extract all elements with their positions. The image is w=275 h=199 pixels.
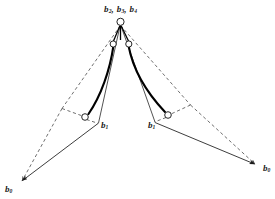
right-far-label: b0	[263, 164, 270, 174]
dashed-right-inner	[171, 105, 191, 114]
right-mid-label-sub: 1	[153, 124, 156, 130]
dashed-right-upper	[121, 26, 191, 106]
dashed-construction-lines	[22, 26, 255, 182]
dashed-left-lower	[22, 109, 62, 182]
right-far-label-sub: 0	[268, 167, 271, 173]
left-lower-arm	[23, 124, 99, 181]
apex-fan	[114, 26, 129, 42]
diagram-canvas	[0, 0, 275, 199]
dashed-left-inner	[62, 109, 83, 117]
dashed-left-upper	[62, 26, 121, 109]
right-lower-arm	[155, 123, 255, 165]
dashed-left-stub	[87, 120, 99, 124]
left-mid-label: b1	[101, 121, 108, 131]
apex-fan-left	[114, 26, 121, 42]
left-far-label-sub: 0	[10, 188, 13, 194]
thick-links	[89, 46, 166, 115]
right-mid-label: b1	[148, 121, 155, 131]
upper-left-node	[110, 41, 116, 47]
dashed-right-stub	[155, 118, 167, 123]
left-mid-label-sub: 1	[106, 124, 109, 130]
left-joint-node	[82, 114, 89, 121]
lower-arms	[23, 123, 255, 181]
dashed-right-lower	[191, 105, 256, 164]
left-far-label: b0	[5, 185, 12, 195]
apex-label: b2, b3, b4	[104, 5, 137, 15]
apex-label-b4-sub: 4	[134, 8, 137, 14]
apex-fan-right	[121, 26, 129, 42]
vector-diagram-figure: b2, b3, b4 b1 b1 b0 b0	[0, 0, 275, 199]
thick-left-link	[89, 46, 114, 115]
apex-node	[117, 18, 124, 25]
thick-right-link	[129, 46, 166, 113]
thin-left-link	[99, 26, 121, 123]
right-joint-node	[165, 112, 172, 119]
upper-right-node	[126, 41, 132, 47]
